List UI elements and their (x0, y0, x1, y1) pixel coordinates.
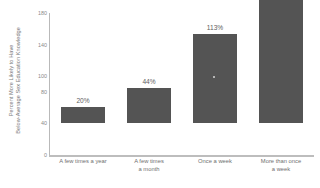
bar-series: 20%44%113%170% (50, 0, 314, 156)
bar-group: 113% (193, 0, 237, 123)
x-axis-label-line: a week (248, 166, 314, 174)
scan-artifact-dot (213, 76, 215, 78)
y-axis-tick-40: 40 (29, 120, 47, 126)
x-axis-category-labels: A few times a yearA few timesa monthOnce… (50, 158, 314, 186)
bar-value-label: 113% (207, 24, 223, 32)
y-axis-title-line-1: Percent More Likely to Have (8, 27, 15, 134)
bar (127, 88, 171, 123)
y-axis-tick-140: 140 (29, 42, 47, 48)
bar-group: 170% (259, 0, 303, 123)
bar (259, 0, 303, 123)
bar-value-label: 20% (76, 97, 89, 105)
bar-value-label: 44% (142, 78, 155, 86)
y-axis-tick-0: 0 (29, 152, 47, 158)
bar (193, 34, 237, 123)
bar-group: 44% (127, 0, 171, 123)
bar-chart: Percent More Likely to Have Below-Averag… (0, 0, 320, 188)
y-axis-tick-100: 100 (29, 73, 47, 79)
x-axis-label-line: a month (116, 166, 182, 174)
x-axis-label: More than oncea week (248, 158, 314, 173)
x-axis-label: A few timesa month (116, 158, 182, 173)
x-axis-label-line: A few times a year (50, 158, 116, 166)
bar (61, 107, 105, 123)
y-axis-tick-180: 180 (29, 10, 47, 16)
y-axis-tick-labels: 04080100140180 (26, 0, 47, 188)
y-axis-title-line-2: Below-Average Sex Education Knowledge (15, 27, 22, 134)
x-axis-label: Once a week (182, 158, 248, 166)
y-axis-tick-80: 80 (29, 89, 47, 95)
x-axis-label: A few times a year (50, 158, 116, 166)
x-axis-label-line: A few times (116, 158, 182, 166)
bar-group: 20% (61, 0, 105, 123)
x-axis-label-line: Once a week (182, 158, 248, 166)
x-axis-label-line: More than once (248, 158, 314, 166)
